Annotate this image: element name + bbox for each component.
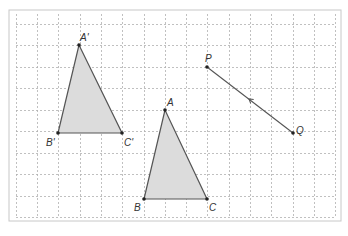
vertex-point <box>142 197 146 201</box>
vertex-label: C <box>209 202 217 213</box>
vertex-point <box>120 131 124 135</box>
vertex-label: A' <box>79 32 90 43</box>
vertex-point <box>77 43 81 47</box>
vertex-point <box>205 197 209 201</box>
vector-label: Q <box>296 125 304 136</box>
vertex-point <box>56 131 60 135</box>
vertex-point <box>163 108 167 112</box>
vertex-label: C' <box>124 137 134 148</box>
translation-diagram: A'B'C'ABCPQ <box>0 0 348 236</box>
vertex-label: A <box>166 97 174 108</box>
vector-endpoint <box>291 131 295 135</box>
vector-endpoint <box>205 65 209 69</box>
vertex-label: B' <box>46 137 56 148</box>
vertex-label: B <box>134 202 141 213</box>
vector-label: P <box>205 53 212 64</box>
